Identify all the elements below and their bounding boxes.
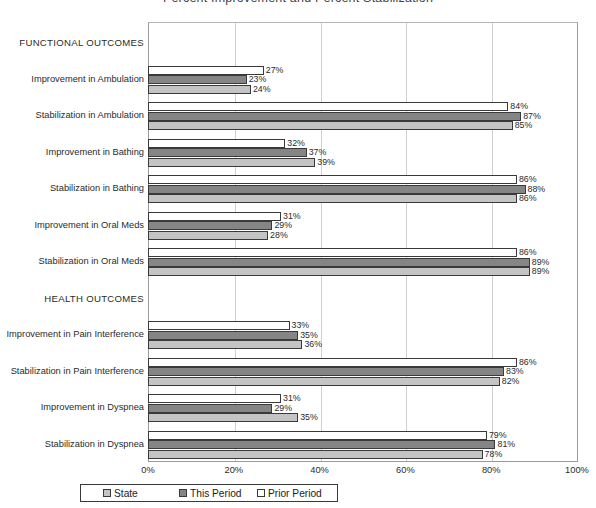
x-axis-tick-label: 20% [214,466,254,475]
bar [148,377,500,386]
bar-value-label: 33% [292,321,310,330]
bar [148,158,315,167]
bar-value-label: 23% [249,75,267,84]
bar-value-label: 24% [253,85,271,94]
category-label: Improvement in Oral Meds [0,221,144,230]
bar-value-label: 28% [270,231,288,240]
bar-value-label: 89% [532,267,550,276]
x-axis-tick-label: 60% [385,466,425,475]
bar-value-label: 27% [266,66,284,75]
gridline [321,23,322,461]
legend-label: Prior Period [268,488,322,499]
category-label: Stabilization in Oral Meds [0,257,144,266]
bar-value-label: 85% [515,121,533,130]
bar [148,194,517,203]
bar [148,404,272,413]
bar-value-label: 86% [519,248,537,257]
bar [148,394,281,403]
legend-swatch-icon [179,489,187,497]
bar [148,431,487,440]
bar [148,121,513,130]
bar [148,102,508,111]
bar-value-label: 84% [510,102,528,111]
bar-value-label: 86% [519,194,537,203]
bar [148,340,302,349]
bar [148,85,251,94]
x-axis-tick-label: 0% [128,466,168,475]
legend-swatch-icon [257,489,265,497]
bar [148,267,530,276]
bar [148,212,281,221]
bar-value-label: 78% [485,450,503,459]
section-header-label: HEALTH OUTCOMES [0,294,144,304]
section-header-label: FUNCTIONAL OUTCOMES [0,38,144,48]
bar [148,248,517,257]
category-label: Improvement in Dyspnea [0,403,144,412]
bar-value-label: 35% [300,413,318,422]
chart-title: Percent Improvement and Percent Stabiliz… [0,0,596,5]
legend-label: This Period [190,488,242,499]
bar-chart: Percent Improvement and Percent Stabiliz… [0,0,596,508]
bar [148,148,307,157]
bar-value-label: 29% [274,221,292,230]
category-label: Improvement in Bathing [0,148,144,157]
bar [148,231,268,240]
category-label: Stabilization in Ambulation [0,111,144,120]
gridline [492,23,493,461]
bar-value-label: 32% [287,139,305,148]
bar [148,139,285,148]
bar [148,258,530,267]
category-label: Improvement in Pain Interference [0,330,144,339]
x-axis-tick-label: 80% [471,466,511,475]
bar-value-label: 36% [304,340,322,349]
bar [148,221,272,230]
x-axis-tick-label: 40% [300,466,340,475]
bar-value-label: 82% [502,377,520,386]
legend-item: State [103,488,138,499]
bar-value-label: 29% [274,404,292,413]
category-label: Stabilization in Pain Interference [0,367,144,376]
bar-value-label: 81% [497,440,515,449]
bar [148,358,517,367]
category-label: Stabilization in Bathing [0,184,144,193]
bar [148,413,298,422]
bar-value-label: 83% [506,367,524,376]
gridline [406,23,407,461]
bar [148,321,290,330]
category-label: Stabilization in Dyspnea [0,440,144,449]
bar [148,185,526,194]
legend-item: Prior Period [257,488,322,499]
bar-value-label: 37% [309,148,327,157]
bar-value-label: 31% [283,394,301,403]
legend-swatch-icon [103,489,111,497]
bar [148,75,247,84]
x-axis-tick-label: 100% [557,466,596,475]
bar [148,175,517,184]
category-label: Improvement in Ambulation [0,75,144,84]
bar [148,367,504,376]
bar [148,331,298,340]
legend: StateThis PeriodPrior Period [80,484,338,502]
legend-label: State [114,488,138,499]
bar [148,112,521,121]
bar [148,450,483,459]
bar [148,66,264,75]
bar [148,440,495,449]
bar-value-label: 39% [317,158,335,167]
bar-value-label: 86% [519,175,537,184]
legend-item: This Period [179,488,242,499]
